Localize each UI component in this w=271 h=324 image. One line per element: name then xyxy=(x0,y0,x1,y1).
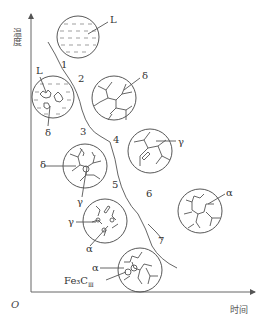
label-gamma-c4: γ xyxy=(77,197,83,207)
label-alpha-c8: α xyxy=(92,263,99,273)
circle-gamma-alpha xyxy=(76,199,127,246)
label-liquid-c1: L xyxy=(110,15,117,25)
x-axis-label: 时间 xyxy=(230,303,248,316)
stage-1: 1 xyxy=(61,60,67,70)
label-gamma-c5: γ xyxy=(178,137,184,147)
circle-alpha xyxy=(178,189,225,233)
stage-5: 5 xyxy=(112,180,118,190)
stage-7: 7 xyxy=(158,236,164,246)
cementite-formula: Fe₃C xyxy=(64,275,88,286)
circle-liquid-delta xyxy=(32,76,74,126)
circle-liquid xyxy=(57,16,108,58)
label-delta-c2: δ xyxy=(45,128,51,138)
label-cementite-c8: Fe₃CⅢ xyxy=(64,276,94,290)
circle-gamma xyxy=(128,129,176,173)
stage-6: 6 xyxy=(146,189,152,199)
circle-delta xyxy=(92,76,140,120)
stage-3: 3 xyxy=(80,127,86,137)
stage-2: 2 xyxy=(78,74,84,84)
label-alpha-c7: α xyxy=(226,188,233,198)
y-axis-label: 温度 xyxy=(12,28,22,46)
label-alpha-c6: α xyxy=(86,244,93,254)
origin-label: O xyxy=(11,299,19,310)
circle-delta-gamma xyxy=(44,144,107,197)
circle-alpha-cementite xyxy=(100,248,162,292)
stage-4: 4 xyxy=(113,135,119,145)
label-delta-c3: δ xyxy=(142,71,148,81)
cementite-subscript: Ⅲ xyxy=(88,281,94,288)
label-delta-c4: δ xyxy=(40,160,46,170)
label-gamma-c6: γ xyxy=(68,217,74,227)
label-liquid-c2: L xyxy=(36,66,43,76)
